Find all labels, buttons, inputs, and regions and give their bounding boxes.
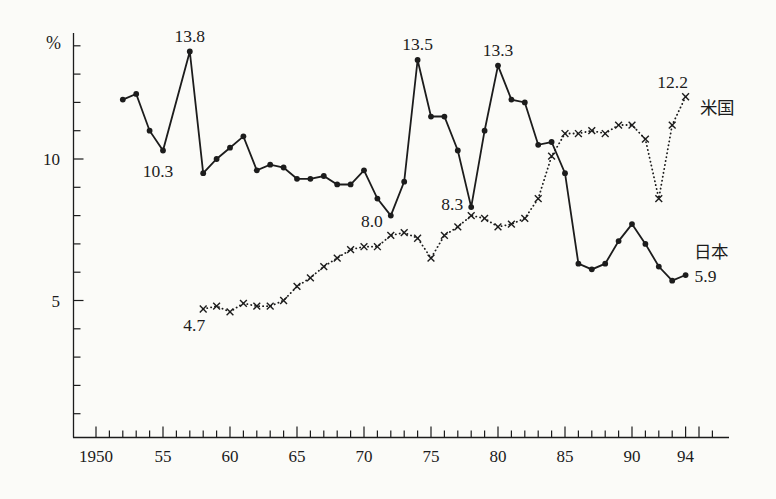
annotation-japan-1957: 13.8	[174, 26, 205, 46]
data-point-us	[294, 283, 301, 290]
x-tick-label: 1950	[79, 447, 113, 466]
x-tick-label: 75	[423, 447, 440, 466]
data-point-us	[682, 93, 689, 100]
data-point-us	[548, 153, 555, 160]
y-tick-label: 5	[52, 292, 61, 311]
data-point-japan	[281, 165, 287, 171]
data-point-japan	[214, 156, 220, 162]
annotation-japan-1955: 10.3	[143, 161, 174, 181]
data-point-us	[374, 243, 381, 250]
data-point-japan	[562, 170, 568, 176]
data-point-us	[562, 130, 569, 137]
data-point-us	[307, 274, 314, 281]
x-tick-label: 85	[557, 447, 574, 466]
data-point-us	[575, 130, 582, 137]
series-japan-line	[123, 52, 686, 281]
data-point-japan	[616, 238, 622, 244]
data-point-japan	[428, 114, 434, 120]
data-point-us	[468, 212, 475, 219]
data-point-japan	[254, 167, 260, 173]
annotation-japan-1978: 8.3	[441, 194, 463, 214]
end-value-label: 5.9	[695, 266, 717, 286]
data-point-japan	[133, 91, 139, 97]
annotation-japan-1980: 13.3	[483, 40, 514, 60]
data-point-japan	[535, 142, 541, 148]
data-point-us	[240, 300, 247, 307]
data-point-japan	[669, 278, 675, 284]
data-point-us	[428, 255, 435, 262]
data-point-japan	[361, 167, 367, 173]
data-point-japan	[147, 128, 153, 134]
data-point-japan	[294, 176, 300, 182]
data-point-japan	[468, 204, 474, 210]
data-point-japan	[495, 63, 501, 69]
data-point-japan	[656, 264, 662, 270]
series-label-us: 米国	[700, 98, 734, 118]
data-point-us	[602, 130, 609, 137]
data-point-japan	[589, 266, 595, 272]
data-point-us	[401, 229, 408, 236]
data-point-japan	[267, 162, 273, 168]
data-point-japan	[388, 213, 394, 219]
data-point-japan	[549, 139, 555, 145]
data-point-japan	[160, 148, 166, 154]
data-point-japan	[308, 176, 314, 182]
data-point-us	[280, 297, 287, 304]
data-point-us	[200, 306, 207, 313]
line-chart: 510%195055606570758085909413.810.313.513…	[0, 0, 776, 499]
data-point-japan	[576, 261, 582, 267]
line-chart-figure: 510%195055606570758085909413.810.313.513…	[0, 0, 776, 499]
data-point-japan	[415, 57, 421, 63]
x-axis-ticks: 1950556065707580859094	[79, 427, 712, 467]
data-point-japan	[348, 182, 354, 188]
annotation-japan-1974: 13.5	[402, 34, 433, 54]
data-point-us	[441, 232, 448, 239]
data-point-japan	[442, 114, 448, 120]
data-point-japan	[401, 179, 407, 185]
data-point-japan	[482, 128, 488, 134]
data-point-japan	[200, 170, 206, 176]
data-point-us	[414, 235, 421, 242]
data-point-us	[454, 224, 461, 231]
x-tick-label: 65	[289, 447, 306, 466]
data-point-us	[535, 195, 542, 202]
data-point-japan	[643, 241, 649, 247]
data-point-us	[320, 263, 327, 270]
annotation-us-1958: 4.7	[183, 315, 205, 335]
data-point-us	[669, 122, 676, 129]
data-point-japan	[522, 100, 528, 106]
data-point-us	[495, 224, 502, 231]
x-tick-label: 70	[356, 447, 373, 466]
x-tick-label: 94	[677, 447, 695, 466]
data-point-japan	[334, 182, 340, 188]
data-point-japan	[375, 196, 381, 202]
data-point-japan	[241, 133, 247, 139]
data-point-us	[227, 308, 234, 315]
data-point-us	[615, 122, 622, 129]
data-point-japan	[602, 261, 608, 267]
y-tick-label: 10	[43, 150, 60, 169]
x-tick-label: 55	[155, 447, 172, 466]
data-point-japan	[683, 272, 689, 278]
data-point-us	[521, 215, 528, 222]
x-tick-label: 60	[222, 447, 239, 466]
y-axis-unit-label: %	[46, 33, 61, 53]
data-point-japan	[187, 49, 193, 55]
data-point-japan	[629, 221, 635, 227]
annotation-us-1994: 12.2	[657, 72, 688, 92]
annotations: 13.810.313.513.38.08.34.712.2米国日本5.9	[143, 26, 734, 336]
series-label-japan: 日本	[694, 242, 728, 262]
data-point-japan	[227, 145, 233, 151]
annotation-japan-1972: 8.0	[361, 211, 383, 231]
data-point-us	[361, 243, 368, 250]
x-tick-label: 90	[624, 447, 641, 466]
data-point-japan	[455, 148, 461, 154]
x-tick-label: 80	[490, 447, 507, 466]
series-japan	[120, 49, 689, 284]
data-point-japan	[321, 173, 327, 179]
data-point-us	[387, 232, 394, 239]
data-point-us	[481, 215, 488, 222]
data-point-japan	[509, 97, 515, 103]
y-axis-ticks: 510%	[43, 33, 84, 414]
data-point-us	[334, 255, 341, 262]
